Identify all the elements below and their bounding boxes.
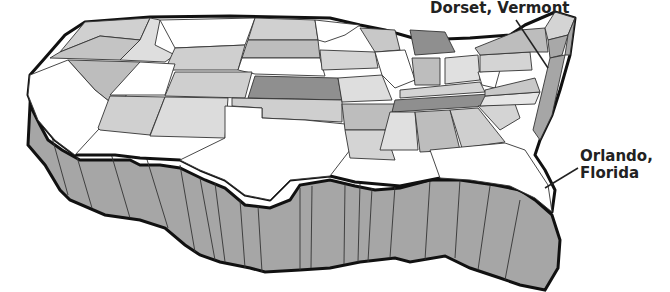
orlando-label-line2: Florida bbox=[580, 165, 653, 182]
us-3d-map bbox=[0, 0, 670, 292]
dorset-vermont-label: Dorset, Vermont bbox=[430, 0, 570, 17]
orlando-label-line1: Orlando, bbox=[580, 148, 653, 165]
orlando-florida-label: Orlando, Florida bbox=[580, 148, 653, 182]
